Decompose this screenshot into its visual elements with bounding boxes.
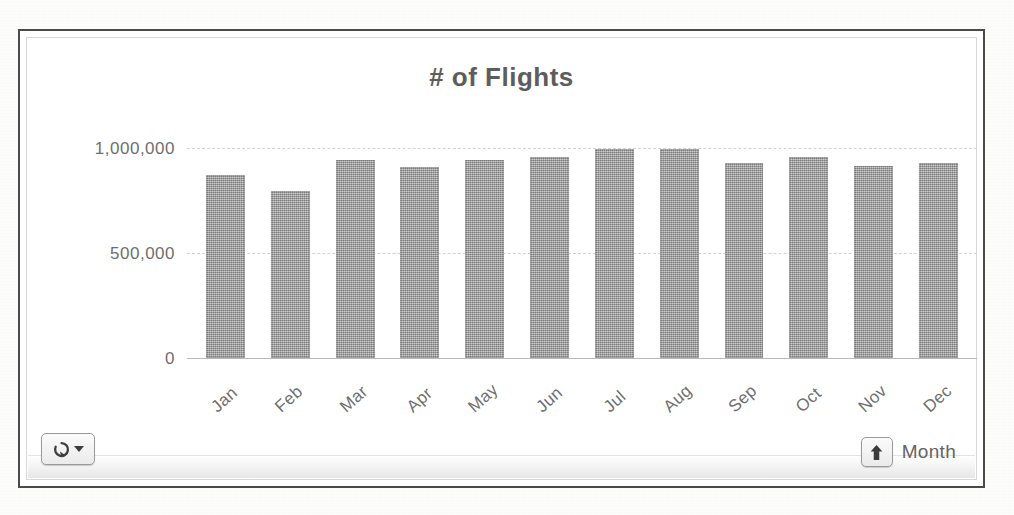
chart-footer-strip xyxy=(28,455,975,478)
bar-slot xyxy=(517,148,582,358)
bar-nov[interactable] xyxy=(854,166,893,358)
bar-mar[interactable] xyxy=(336,160,375,358)
ytick-label-1000000: 1,000,000 xyxy=(95,139,175,159)
chart-plot-container: # of Flights 1,000,000 500,000 0 JanFebM… xyxy=(26,37,977,480)
bar-feb[interactable] xyxy=(271,191,310,358)
bar-jul[interactable] xyxy=(595,149,634,358)
x-label-slot: Jul xyxy=(582,398,647,458)
bar-slot xyxy=(906,148,971,358)
scanned-page: # of Flights 1,000,000 500,000 0 JanFebM… xyxy=(0,0,1014,515)
arrow-up-icon xyxy=(869,444,884,461)
page-title: # of Flights xyxy=(27,62,976,93)
x-label-slot: Feb xyxy=(258,398,323,458)
x-label-slot: Oct xyxy=(776,398,841,458)
drill-up-button[interactable] xyxy=(861,437,893,467)
bar-oct[interactable] xyxy=(789,157,828,358)
bar-slot xyxy=(712,148,777,358)
bar-slot xyxy=(841,148,906,358)
x-axis-labels: JanFebMarAprMayJunJulAugSepOctNovDec xyxy=(187,398,977,458)
bar-slot xyxy=(582,148,647,358)
pivot-field-label: Month xyxy=(902,441,956,463)
bar-slot xyxy=(323,148,388,358)
x-label-slot: Sep xyxy=(712,398,777,458)
bar-slot xyxy=(193,148,258,358)
chart-object-frame[interactable]: # of Flights 1,000,000 500,000 0 JanFebM… xyxy=(18,29,985,488)
bar-slot xyxy=(387,148,452,358)
bar-slot xyxy=(452,148,517,358)
ytick-label-0: 0 xyxy=(165,349,175,369)
bar-aug[interactable] xyxy=(660,149,699,358)
plot-area: 1,000,000 500,000 0 xyxy=(187,148,977,393)
bar-jan[interactable] xyxy=(206,175,245,358)
bar-jun[interactable] xyxy=(530,157,569,358)
bar-sep[interactable] xyxy=(725,163,764,358)
bar-dec[interactable] xyxy=(919,163,958,358)
ytick-label-500000: 500,000 xyxy=(110,244,175,264)
bar-slot xyxy=(258,148,323,358)
x-label-slot: May xyxy=(452,398,517,458)
pivot-refresh-button[interactable] xyxy=(41,433,95,465)
bar-may[interactable] xyxy=(465,160,504,358)
x-label-slot: Jun xyxy=(517,398,582,458)
chevron-down-icon xyxy=(74,446,84,452)
x-label-slot: Apr xyxy=(387,398,452,458)
bar-apr[interactable] xyxy=(400,167,439,358)
x-label-slot: Mar xyxy=(323,398,388,458)
pivot-field-button-month[interactable]: Month xyxy=(861,437,956,467)
x-label-slot: Jan xyxy=(193,398,258,458)
x-label-slot: Aug xyxy=(647,398,712,458)
axis-line-zero: 0 xyxy=(187,358,977,359)
bar-slot xyxy=(647,148,712,358)
bar-slot xyxy=(776,148,841,358)
bar-series xyxy=(187,148,977,358)
rotate-refresh-icon xyxy=(52,440,71,459)
